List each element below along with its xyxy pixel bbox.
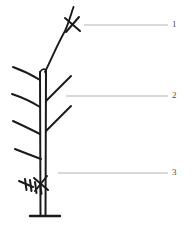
label-number-2: 2 bbox=[172, 91, 177, 100]
label-number-1: 1 bbox=[172, 20, 177, 29]
plant-diagram: 1 2 3 bbox=[0, 0, 192, 237]
trunk-right-edge bbox=[46, 70, 47, 216]
trunk-left-edge bbox=[40, 72, 41, 216]
plant-illustration bbox=[0, 0, 192, 237]
label-number-3: 3 bbox=[172, 168, 177, 177]
diagram-background bbox=[0, 0, 192, 237]
